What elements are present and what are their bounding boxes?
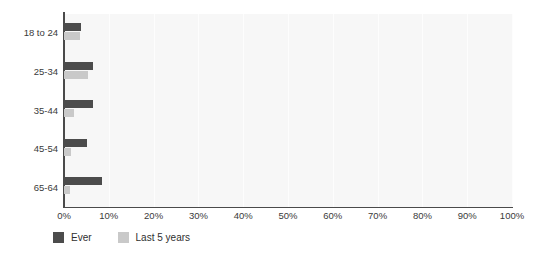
x-axis-tick-label: 80%: [413, 210, 432, 221]
x-axis-line: [64, 207, 513, 208]
bar-last-5-years: [64, 148, 71, 156]
legend-swatch-icon: [118, 232, 129, 243]
bar-ever: [64, 23, 81, 31]
y-axis-tick-label: 18 to 24: [2, 27, 58, 38]
bar-ever: [64, 100, 93, 108]
bars-layer: [64, 14, 512, 207]
y-axis-tick-labels: 18 to 2425-3435-4445-5465-64: [0, 14, 58, 207]
y-axis-tick-label: 45-54: [2, 143, 58, 154]
legend-item[interactable]: Ever: [53, 232, 92, 243]
y-axis-tick-label: 65-64: [2, 182, 58, 193]
bar-group: [64, 14, 512, 53]
x-axis-tick-label: 60%: [323, 210, 342, 221]
bar-group: [64, 168, 512, 207]
x-axis-tick-label: 90%: [458, 210, 477, 221]
x-axis-tick-label: 0%: [57, 210, 71, 221]
bar-last-5-years: [64, 32, 80, 40]
legend-label: Ever: [71, 232, 92, 243]
x-axis-tick-label: 50%: [278, 210, 297, 221]
legend-item[interactable]: Last 5 years: [118, 232, 190, 243]
bar-last-5-years: [64, 186, 70, 194]
bar-group: [64, 91, 512, 130]
x-axis-tick-labels: 0%10%20%30%40%50%60%70%80%90%100%: [64, 210, 512, 226]
y-axis-tick-label: 35-44: [2, 105, 58, 116]
bar-last-5-years: [64, 109, 74, 117]
bar-last-5-years: [64, 71, 88, 79]
bar-ever: [64, 62, 93, 70]
x-axis-tick-label: 20%: [144, 210, 163, 221]
x-axis-tick-label: 100%: [500, 210, 524, 221]
y-axis-tick-label: 25-34: [2, 66, 58, 77]
legend-label: Last 5 years: [136, 232, 190, 243]
x-axis-tick-label: 10%: [99, 210, 118, 221]
bar-ever: [64, 177, 102, 185]
legend-swatch-icon: [53, 232, 64, 243]
chart-legend: EverLast 5 years: [53, 232, 190, 243]
bar-ever: [64, 139, 87, 147]
bar-group: [64, 53, 512, 92]
x-axis-tick-label: 70%: [368, 210, 387, 221]
bar-group: [64, 130, 512, 169]
gridline: [512, 14, 513, 207]
bar-chart: 18 to 2425-3435-4445-5465-64 0%10%20%30%…: [0, 0, 539, 261]
x-axis-tick-label: 30%: [189, 210, 208, 221]
x-axis-tick-label: 40%: [234, 210, 253, 221]
